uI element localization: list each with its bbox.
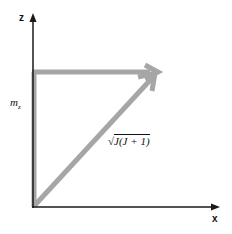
vector-diagram bbox=[0, 0, 232, 234]
mz-label: mz bbox=[10, 96, 21, 111]
z-axis-label: z bbox=[19, 12, 24, 23]
z-axis-arrow-icon bbox=[30, 13, 37, 22]
x-axis-arrow-icon bbox=[211, 204, 220, 211]
x-axis-label: x bbox=[212, 213, 218, 224]
magnitude-label: √J(J + 1) bbox=[108, 135, 150, 147]
magnitude-expression: J(J + 1) bbox=[114, 134, 150, 147]
